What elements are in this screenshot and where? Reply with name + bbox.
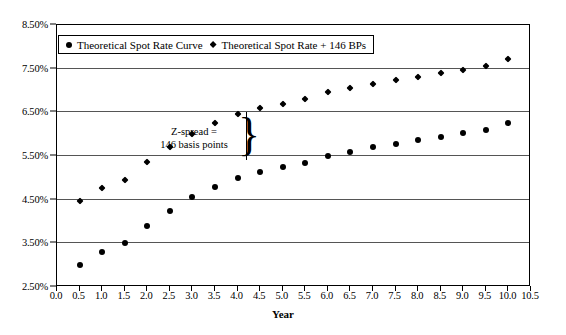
x-axis-tick-label: 4.0 <box>230 290 243 301</box>
circle-marker-icon <box>66 42 72 48</box>
x-axis-tick-label: 8.0 <box>411 290 424 301</box>
x-axis-tick-mark <box>372 286 373 291</box>
x-axis-tick-mark <box>462 286 463 291</box>
z-spread-brace-line <box>246 112 247 160</box>
x-axis-tick-label: 1.0 <box>95 290 108 301</box>
x-axis-tick-mark <box>417 286 418 291</box>
x-axis-tick-mark <box>146 286 147 291</box>
x-axis-tick-mark <box>259 286 260 291</box>
x-axis-title: Year <box>0 308 566 320</box>
x-axis-tick-mark <box>214 286 215 291</box>
x-axis-tick-label: 5.5 <box>298 290 311 301</box>
x-axis-tick-mark <box>349 286 350 291</box>
x-axis-tick-mark <box>56 286 57 291</box>
x-axis-tick-mark <box>485 286 486 291</box>
x-axis-tick-mark <box>530 286 531 291</box>
x-axis-tick-label: 6.0 <box>321 290 334 301</box>
x-axis-tick-mark <box>440 286 441 291</box>
chart-container: 2.50%3.50%4.50%5.50%6.50%7.50%8.50% 0.00… <box>0 0 566 335</box>
x-axis-tick-label: 4.5 <box>253 290 266 301</box>
z-spread-line-2: 146 basis points <box>146 139 242 152</box>
x-axis-tick-label: 10.0 <box>499 290 517 301</box>
z-spread-annotation: Z-spread = 146 basis points <box>146 126 242 151</box>
x-axis-tick-label: 10.5 <box>521 290 539 301</box>
x-axis-tick-label: 7.0 <box>366 290 379 301</box>
x-axis-tick-mark <box>507 286 508 291</box>
x-axis-tick-mark <box>395 286 396 291</box>
x-axis-tick-label: 5.0 <box>275 290 288 301</box>
x-axis-tick-mark <box>101 286 102 291</box>
x-axis-tick-mark <box>304 286 305 291</box>
x-axis-tick-mark <box>124 286 125 291</box>
chart-legend: Theoretical Spot Rate Curve Theoretical … <box>58 35 374 54</box>
legend-label: Theoretical Spot Rate + 146 BPs <box>222 39 367 51</box>
x-axis-tick-label: 0.0 <box>50 290 63 301</box>
legend-label: Theoretical Spot Rate Curve <box>77 39 203 51</box>
x-axis-tick-label: 3.0 <box>185 290 198 301</box>
x-axis-tick-label: 9.0 <box>456 290 469 301</box>
x-axis-tick-label: 9.5 <box>479 290 492 301</box>
x-axis-tick-label: 8.5 <box>433 290 446 301</box>
diamond-marker-icon <box>210 41 217 48</box>
x-axis-tick-label: 2.0 <box>140 290 153 301</box>
x-axis-tick-mark <box>237 286 238 291</box>
legend-entry-spot-rate-plus-146: Theoretical Spot Rate + 146 BPs <box>210 39 367 51</box>
legend-entry-spot-rate-curve: Theoretical Spot Rate Curve <box>66 39 203 51</box>
x-axis-tick-mark <box>79 286 80 291</box>
x-axis-tick-label: 3.5 <box>208 290 221 301</box>
z-spread-line-1: Z-spread = <box>146 126 242 139</box>
x-axis-tick-label: 0.5 <box>72 290 85 301</box>
x-axis-tick-mark <box>169 286 170 291</box>
x-axis-tick-mark <box>191 286 192 291</box>
x-axis-tick-label: 7.5 <box>388 290 401 301</box>
x-axis-tick-label: 6.5 <box>343 290 356 301</box>
x-axis-tick-label: 1.5 <box>117 290 130 301</box>
x-axis-tick-label: 2.5 <box>163 290 176 301</box>
x-axis-tick-mark <box>282 286 283 291</box>
x-axis-tick-mark <box>327 286 328 291</box>
